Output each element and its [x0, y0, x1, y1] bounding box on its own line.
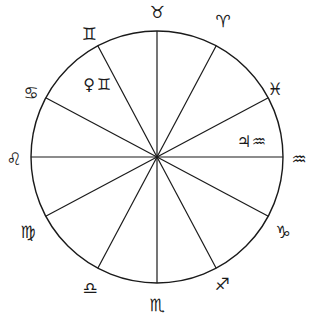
sagittarius-sign-icon: ♐ — [214, 274, 229, 294]
aquarius-sign-icon: ♒ — [291, 149, 306, 169]
aries-sign-icon: ♈ — [215, 11, 230, 31]
zodiac-wheel-diagram: ♉ ♈ ♓ ♒ ♑ ♐ ♏ ♎ ♍ ♌ ♋ ♊ ♀ ♊ ♃ ♒ — [0, 0, 314, 326]
jupiter-in-aquarius: ♃ ♒ — [237, 132, 266, 151]
gemini-placement-icon: ♊ — [97, 75, 111, 94]
capricorn-sign-icon: ♑ — [275, 222, 290, 242]
jupiter-planet-icon: ♃ — [237, 132, 251, 151]
libra-sign-icon: ♎ — [82, 278, 97, 298]
leo-sign-icon: ♌ — [6, 149, 21, 169]
aquarius-placement-icon: ♒ — [252, 132, 266, 151]
virgo-sign-icon: ♍ — [20, 222, 35, 242]
scorpio-sign-icon: ♏ — [149, 295, 164, 315]
taurus-sign-icon: ♉ — [149, 2, 164, 22]
venus-in-gemini: ♀ ♊ — [83, 75, 111, 94]
venus-planet-icon: ♀ — [83, 75, 95, 94]
cancer-sign-icon: ♋ — [23, 83, 38, 103]
pisces-sign-icon: ♓ — [267, 79, 282, 99]
gemini-sign-icon: ♊ — [81, 24, 96, 44]
